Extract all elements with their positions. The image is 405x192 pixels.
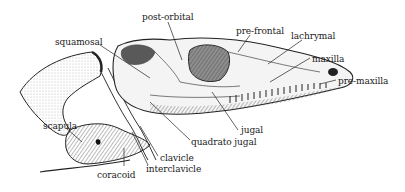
label-pre-maxilla: pre-maxilla [338,76,388,86]
label-lachrymal: lachrymal [291,31,335,41]
label-squamosal: squamosal [55,37,102,47]
label-scapula: scapula [43,121,77,131]
label-clavicle: clavicle [160,153,194,163]
skull-illustration [0,0,405,192]
label-coracoid: coracoid [97,170,135,180]
label-maxilla: maxilla [312,54,344,64]
coracoid-shape [66,124,150,164]
label-pre-frontal: pre-frontal [236,26,284,36]
label-interclavicle: interclavicle [146,164,201,174]
label-jugal: jugal [241,125,263,135]
label-quadrato-jugal: quadrato jugal [191,137,256,147]
label-post-orbital: post-orbital [142,12,193,22]
